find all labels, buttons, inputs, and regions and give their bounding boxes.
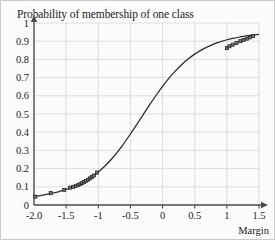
- data-point-marker: [235, 41, 238, 44]
- data-point-marker: [63, 188, 66, 191]
- y-tick-label: 0.9: [16, 36, 29, 47]
- x-axis-tick-labels: -2.0-1.5-1-0.500.511.5: [26, 210, 266, 221]
- y-axis-tick-labels: 00.10.20.30.40.50.60.70.80.91: [16, 18, 30, 211]
- x-tick-label: 0: [160, 210, 165, 221]
- data-point-marker: [245, 37, 248, 40]
- data-point-marker: [34, 195, 37, 198]
- y-tick-label: 0.2: [16, 163, 29, 174]
- y-tick-label: 0.7: [16, 72, 29, 83]
- y-axis-arrow-icon: [31, 15, 37, 22]
- data-point-marker: [95, 171, 98, 174]
- y-tick-label: 0.3: [16, 145, 29, 156]
- data-point-marker: [231, 43, 234, 46]
- data-point-marker: [49, 192, 52, 195]
- data-point-marker: [252, 35, 255, 38]
- data-point-marker: [92, 174, 95, 177]
- x-tick-label: 0.5: [188, 210, 201, 221]
- probability-margin-line-chart: 00.10.20.30.40.50.60.70.80.91 -2.0-1.5-1…: [1, 1, 275, 240]
- y-tick-label: 0.4: [16, 127, 30, 138]
- data-point-marker: [248, 36, 251, 39]
- y-tick-label: 0.5: [16, 109, 29, 120]
- x-tick-label: -1: [94, 210, 103, 221]
- data-point-marker: [68, 186, 71, 189]
- data-point-marker: [242, 38, 245, 41]
- y-tick-label: 0: [24, 200, 29, 211]
- x-tick-label: -1.5: [58, 210, 75, 221]
- chart-figure: Probability of membership of one class 0…: [0, 0, 275, 240]
- y-tick-label: 1: [24, 18, 29, 29]
- y-tick-label: 0.8: [16, 54, 29, 65]
- x-tick-label: -2.0: [26, 210, 43, 221]
- y-tick-label: 0.6: [16, 90, 29, 101]
- sigmoid-curve: [34, 34, 259, 196]
- data-point-marker: [239, 40, 242, 43]
- x-tick-label: 1.5: [252, 210, 265, 221]
- x-axis-title: Margin: [238, 225, 269, 236]
- data-point-marker: [228, 45, 231, 48]
- x-axis-arrow-icon: [261, 202, 268, 208]
- x-tick-label: -0.5: [122, 210, 139, 221]
- y-tick-label: 0.1: [16, 181, 29, 192]
- x-tick-label: 1: [224, 210, 229, 221]
